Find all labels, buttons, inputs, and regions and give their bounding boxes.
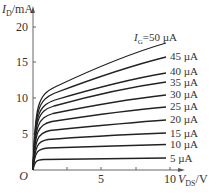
label-10uA: 10 µA [170, 138, 198, 150]
x-axis-title: VDS/V [178, 172, 208, 188]
tick-y-15: 15 [16, 55, 28, 69]
tick-y-5: 5 [22, 127, 28, 141]
tick-x-5: 5 [98, 172, 104, 186]
label-35uA: 35 µA [170, 76, 198, 88]
tick-y-10: 10 [16, 91, 28, 105]
label-20uA: 20 µA [170, 113, 198, 125]
curve-15uA [33, 133, 166, 170]
tick-y-20: 20 [16, 20, 28, 34]
label-50uA: IG=50 µA [133, 31, 177, 46]
origin-label: O [19, 169, 28, 183]
tick-x-10: 10 [164, 172, 176, 186]
label-5uA: 5 µA [170, 152, 193, 164]
y-axis-title: ID/mA [1, 2, 33, 18]
transistor-output-characteristics-chart: 5 10 15 20 5 10 O ID/mA VDS/V IG=50 µA 4… [0, 0, 219, 196]
label-45uA: 45 µA [170, 50, 198, 62]
curve-10uA [33, 145, 166, 171]
label-30uA: 30 µA [170, 88, 198, 100]
curve-5uA [33, 158, 166, 170]
characteristic-curves [33, 43, 166, 170]
label-25uA: 25 µA [170, 100, 198, 112]
